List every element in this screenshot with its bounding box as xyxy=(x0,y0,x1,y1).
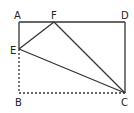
segment-EC xyxy=(19,49,125,93)
geometry-diagram: A F D E B C xyxy=(0,0,134,113)
label-A: A xyxy=(14,10,21,21)
segment-FC xyxy=(54,22,125,93)
label-D: D xyxy=(121,10,129,21)
segment-EF xyxy=(19,22,54,49)
label-C: C xyxy=(121,97,128,108)
label-B: B xyxy=(15,97,22,108)
label-E: E xyxy=(10,45,16,56)
label-F: F xyxy=(51,10,57,21)
